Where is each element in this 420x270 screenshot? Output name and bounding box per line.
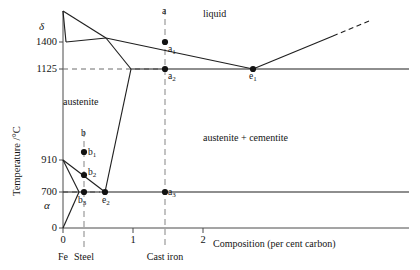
point-b2-label: b2: [88, 168, 96, 178]
point-b-text: b: [81, 128, 86, 138]
x-tick-2: 2: [193, 235, 213, 246]
point-b3-label: b3: [78, 196, 86, 206]
y-tick-marks: [59, 42, 63, 228]
guide-lines: [63, 9, 165, 247]
liquidus-dashed-extension: [333, 21, 369, 36]
point-b-label: b: [81, 129, 86, 139]
point-a3-sub: 3: [172, 191, 176, 199]
point-a-text: a: [162, 6, 166, 16]
delta-ferrite-symbol: δ: [39, 21, 44, 32]
point-e2-sub: 2: [106, 199, 110, 207]
alpha-lower-solvus: [63, 192, 79, 228]
liquidus-to-eutectic: [106, 38, 253, 69]
y-tick-1125: 1125: [17, 64, 57, 75]
point-a3-label: a3: [168, 188, 176, 198]
region-liquid: liquid: [203, 9, 226, 19]
point-e1-sub: 1: [253, 75, 257, 83]
alpha-ferrite-symbol: α: [44, 200, 50, 211]
composition-label-cast-iron: Cast iron: [131, 252, 199, 262]
point-a1-label: a1: [168, 45, 176, 55]
y-tick-0: 0: [17, 223, 57, 234]
point-a-label: a: [162, 7, 166, 17]
data-point-markers: [81, 39, 256, 195]
alpha-upper-solvus: [63, 160, 79, 192]
liquidus-hypereutectic: [253, 36, 333, 69]
point-b1-label: b1: [88, 148, 96, 158]
acm-solvus: [105, 69, 131, 192]
phase-boundaries: [63, 11, 409, 228]
marker-b1: [81, 149, 87, 155]
point-a2-sub: 2: [172, 75, 176, 83]
liquidus-left: [63, 11, 106, 38]
x-tick-1: 1: [123, 235, 143, 246]
y-tick-1400: 1400: [17, 37, 57, 48]
marker-b2: [81, 172, 87, 178]
delta-gamma-upper: [66, 38, 106, 42]
axis-lines: [63, 11, 409, 228]
point-a1-sub: 1: [172, 48, 176, 56]
composition-label-steel: Steel: [64, 252, 104, 262]
y-tick-700: 700: [17, 187, 57, 198]
x-axis-title: Composition (per cent carbon): [213, 239, 335, 249]
x-tick-0: 0: [53, 235, 73, 246]
point-a2-label: a2: [168, 72, 176, 82]
region-austenite: austenite: [63, 97, 99, 107]
region-austenite-cementite: austenite + cementite: [203, 133, 288, 143]
point-b3-sub: 3: [83, 199, 87, 207]
phase-diagram-figure: Temperature /°C 1400 1125 910 700 0 δ α …: [0, 0, 420, 270]
point-e2-label: e2: [102, 196, 110, 206]
point-b1-sub: 1: [93, 151, 97, 159]
y-tick-910: 910: [17, 155, 57, 166]
point-b2-sub: 2: [93, 171, 97, 179]
point-e1-label: e1: [249, 72, 257, 82]
